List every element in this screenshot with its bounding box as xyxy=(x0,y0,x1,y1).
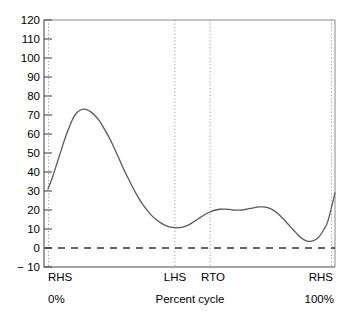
x-axis-event-labels: RHS LHS RTO RHS xyxy=(48,271,333,283)
y-tick-label: 100 xyxy=(21,52,40,64)
y-tick-label: − 10 xyxy=(17,261,40,273)
y-tick-label: 60 xyxy=(27,128,40,140)
line-chart: 120 110 100 90 80 70 60 50 40 30 20 10 0… xyxy=(0,0,353,319)
event-marker-lines xyxy=(49,20,332,267)
plot-frame xyxy=(44,20,335,267)
x-axis-title: Percent cycle xyxy=(155,293,224,305)
y-axis-tick-labels: 120 110 100 90 80 70 60 50 40 30 20 10 0… xyxy=(17,14,40,273)
y-tick-label: 70 xyxy=(27,109,40,121)
y-tick-label: 120 xyxy=(21,14,40,26)
y-tick-label: 0 xyxy=(34,242,40,254)
x-range-end-label: 100% xyxy=(305,293,334,305)
data-curve xyxy=(48,109,335,241)
y-tick-label: 40 xyxy=(27,166,40,178)
y-tick-label: 80 xyxy=(27,90,40,102)
event-label-rhs-start: RHS xyxy=(48,271,73,283)
x-axis-caption-row: 0% Percent cycle 100% xyxy=(48,293,334,305)
chart-container: 120 110 100 90 80 70 60 50 40 30 20 10 0… xyxy=(0,0,353,319)
y-tick-label: 20 xyxy=(27,204,40,216)
y-tick-label: 10 xyxy=(27,223,40,235)
event-label-rto: RTO xyxy=(201,271,225,283)
y-tick-label: 90 xyxy=(27,71,40,83)
y-tick-label: 50 xyxy=(27,147,40,159)
event-label-lhs: LHS xyxy=(164,271,187,283)
x-range-start-label: 0% xyxy=(48,293,65,305)
y-tick-label: 30 xyxy=(27,185,40,197)
event-label-rhs-end: RHS xyxy=(309,271,334,283)
y-tick-label: 110 xyxy=(22,33,40,45)
